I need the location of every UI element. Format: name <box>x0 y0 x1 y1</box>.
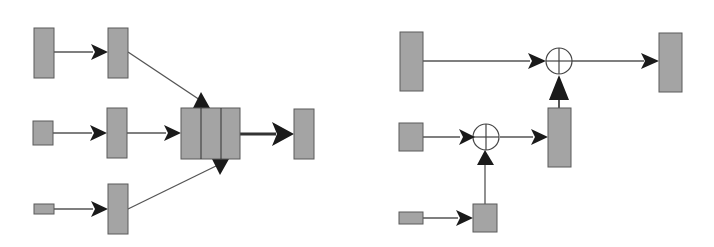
feature-block-2 <box>107 108 127 158</box>
arrowhead-icon <box>528 53 546 69</box>
output-block <box>659 33 682 92</box>
input-block-small <box>399 212 423 224</box>
arrowhead-icon <box>91 201 108 217</box>
input-block-medium <box>33 121 53 145</box>
left-connections <box>53 52 276 209</box>
fused-block <box>548 108 571 167</box>
arrowhead-icon <box>456 210 473 226</box>
right-diagram <box>399 32 682 232</box>
left-diagram <box>33 28 314 234</box>
concat-block <box>181 108 240 159</box>
arrowhead-icon <box>531 129 548 145</box>
arrowhead-icon <box>193 92 210 108</box>
input-block-large <box>400 32 423 91</box>
input-block-small <box>34 204 54 214</box>
edge-feat3-concat <box>128 166 216 209</box>
arrowhead-icon <box>477 150 494 165</box>
arrowhead-icon <box>164 125 181 141</box>
arrowhead-icon <box>90 125 107 141</box>
edge-feat1-concat <box>128 52 200 100</box>
feature-block-3 <box>108 184 128 234</box>
arrowhead-icon <box>549 75 569 100</box>
output-block <box>294 109 314 159</box>
arrowhead-icon <box>91 44 108 60</box>
arrowhead-icon <box>459 129 475 145</box>
diagram-canvas <box>0 0 714 247</box>
input-block-large <box>34 28 54 78</box>
input-block-medium <box>399 123 423 151</box>
sum-node-top <box>546 48 572 74</box>
sum-node-bottom <box>473 124 499 150</box>
feature-block-1 <box>108 28 128 78</box>
right-connections <box>423 61 644 218</box>
upsampled-block <box>473 204 497 232</box>
